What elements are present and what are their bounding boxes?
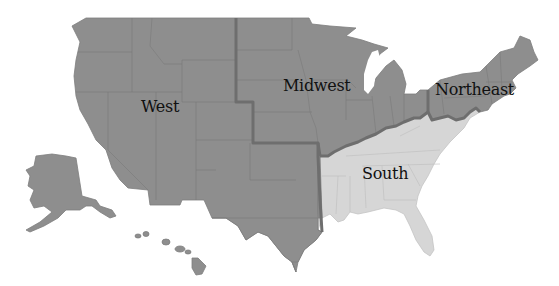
label-northeast: Northeast [435,80,514,99]
us-regions-map [0,0,559,286]
region-west-alaska[interactable] [26,154,116,232]
label-midwest: Midwest [283,76,350,95]
label-west: West [141,97,179,116]
region-northeast[interactable] [428,36,538,120]
region-west-hawaii[interactable] [135,232,206,276]
label-south: South [362,164,408,183]
